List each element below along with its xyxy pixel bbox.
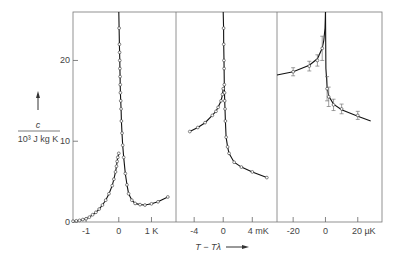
x-tick-label: 4 mK	[248, 226, 269, 236]
data-point-marker	[225, 136, 228, 139]
data-point-marker	[111, 184, 114, 187]
y-axis-label-numerator: c	[36, 120, 41, 130]
curve-below-lambda	[190, 89, 223, 132]
data-point-marker	[85, 217, 88, 220]
x-tick-label: 0	[323, 226, 328, 236]
data-point-marker	[157, 200, 160, 203]
data-point-marker	[120, 108, 123, 111]
data-point-marker	[130, 199, 133, 202]
data-point-marker	[118, 59, 121, 62]
data-point-marker	[112, 178, 115, 181]
curve-above-lambda	[119, 12, 168, 205]
data-point-marker	[316, 59, 319, 62]
x-axis-arrow-icon	[226, 245, 249, 249]
data-point-marker	[166, 196, 169, 199]
x-tick-label: 0	[116, 226, 121, 236]
data-point-marker	[139, 203, 142, 206]
data-point-marker	[226, 145, 229, 148]
x-tick-label: 20 µK	[352, 226, 376, 236]
data-point-marker	[116, 160, 119, 163]
data-point-marker	[321, 47, 324, 50]
data-point-marker	[204, 121, 207, 124]
data-markers	[72, 27, 360, 223]
x-tick-label: -1	[82, 226, 90, 236]
data-point-marker	[127, 192, 130, 195]
data-point-marker	[150, 202, 153, 205]
data-point-marker	[265, 176, 268, 179]
data-point-marker	[251, 171, 254, 174]
data-point-marker	[121, 144, 124, 147]
data-point-marker	[104, 199, 107, 202]
data-point-marker	[222, 43, 225, 46]
data-point-marker	[233, 161, 236, 164]
x-tick-label: -4	[190, 226, 198, 236]
data-point-marker	[119, 99, 122, 102]
data-point-marker	[220, 99, 223, 102]
curve-fit-below	[277, 12, 326, 75]
x-tick-label: -20	[287, 226, 300, 236]
data-point-marker	[292, 70, 295, 73]
data-point-marker	[215, 110, 218, 113]
data-point-marker	[217, 106, 220, 109]
data-point-marker	[222, 87, 225, 90]
data-point-marker	[115, 165, 118, 168]
data-point-marker	[228, 152, 231, 155]
data-point-marker	[119, 83, 122, 86]
x-axis-label: T − Tλ	[195, 242, 221, 252]
axis-ticks: 01020-101 K-404 mK-20020 µK	[60, 55, 376, 236]
data-point-marker	[78, 219, 81, 222]
data-point-marker	[134, 202, 137, 205]
data-point-marker	[121, 132, 124, 135]
data-point-marker	[211, 114, 214, 117]
data-point-marker	[118, 43, 121, 46]
data-point-marker	[94, 211, 97, 214]
data-point-marker	[98, 208, 101, 211]
data-point-marker	[332, 103, 335, 106]
chart-canvas: 01020-101 K-404 mK-20020 µK c 10³ J kg K…	[0, 0, 398, 261]
data-point-marker	[356, 114, 359, 117]
data-point-marker	[122, 156, 125, 159]
data-point-marker	[124, 172, 127, 175]
data-point-marker	[91, 213, 94, 216]
data-point-marker	[240, 166, 243, 169]
data-point-marker	[114, 171, 117, 174]
data-point-marker	[326, 87, 329, 90]
data-point-marker	[118, 51, 121, 54]
data-point-marker	[223, 59, 226, 62]
x-tick-label: 1 K	[145, 226, 159, 236]
data-point-marker	[223, 91, 226, 94]
data-point-marker	[116, 156, 119, 159]
data-point-marker	[88, 216, 91, 219]
y-axis-arrow-icon	[36, 91, 40, 110]
y-tick-label: 0	[65, 217, 70, 227]
data-point-marker	[119, 67, 122, 70]
data-point-marker	[223, 67, 226, 70]
data-point-marker	[144, 204, 147, 207]
data-point-marker	[222, 27, 225, 30]
data-point-marker	[223, 83, 226, 86]
data-point-marker	[308, 65, 311, 68]
data-point-marker	[224, 120, 227, 123]
y-axis-label-denominator: 10³ J kg K	[18, 134, 59, 144]
data-point-marker	[119, 75, 122, 78]
data-curves	[73, 12, 371, 221]
data-point-marker	[72, 220, 75, 223]
data-point-marker	[188, 130, 191, 133]
data-point-marker	[119, 91, 122, 94]
data-point-marker	[340, 108, 343, 111]
data-point-marker	[223, 99, 226, 102]
data-point-marker	[118, 27, 121, 30]
data-point-marker	[120, 120, 123, 123]
data-point-marker	[108, 192, 111, 195]
data-point-marker	[101, 204, 104, 207]
y-tick-label: 10	[60, 136, 70, 146]
data-point-marker	[196, 126, 199, 129]
data-point-marker	[75, 219, 78, 222]
data-point-marker	[81, 218, 84, 221]
data-point-marker	[224, 108, 227, 111]
x-tick-label: 0	[221, 226, 226, 236]
data-point-marker	[126, 183, 129, 186]
data-point-marker	[327, 95, 330, 98]
y-tick-label: 20	[60, 55, 70, 65]
data-point-marker	[117, 152, 120, 155]
